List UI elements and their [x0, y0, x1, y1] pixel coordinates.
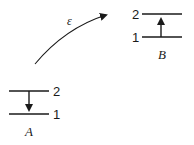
system-b-level-2-label: 2 [132, 8, 139, 21]
system-b [142, 14, 182, 37]
system-b-level-1-label: 1 [132, 31, 139, 44]
system-a-level-2-label: 2 [53, 85, 60, 98]
transfer-label: ε [67, 15, 72, 27]
system-a-name: A [25, 125, 33, 138]
system-a [9, 91, 49, 114]
system-a-level-1-label: 1 [53, 108, 60, 121]
system-b-name: B [158, 48, 166, 61]
